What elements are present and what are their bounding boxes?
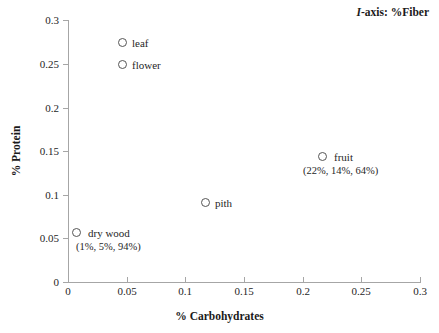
- y-axis-title: % Protein: [10, 101, 22, 201]
- data-label-fruit-name: fruit: [334, 151, 353, 163]
- data-label-fruit-sub: (22%, 14%, 64%): [303, 164, 378, 177]
- data-point-pith[interactable]: [201, 198, 210, 207]
- y-tick-3: [63, 151, 68, 152]
- data-point-leaf[interactable]: [118, 38, 127, 47]
- y-tick-4: [63, 108, 68, 109]
- y-tick-label-5: 0.25: [19, 58, 59, 70]
- y-tick-label-2: 0.1: [19, 189, 59, 201]
- y-tick-1: [63, 238, 68, 239]
- x-tick-label-3: 0.15: [224, 285, 264, 297]
- data-point-dry-wood[interactable]: [72, 228, 81, 237]
- data-label-flower: flower: [132, 59, 161, 72]
- x-axis-line: [68, 282, 421, 283]
- x-tick-label-4: 0.2: [283, 285, 323, 297]
- data-label-fruit: fruit(22%, 14%, 64%): [334, 151, 378, 177]
- y-tick-label-4: 0.2: [19, 102, 59, 114]
- third-axis-annotation: I-axis: %Fiber: [356, 6, 429, 18]
- x-tick-2: [185, 277, 186, 282]
- y-axis-line: [68, 20, 69, 283]
- x-axis-title: % Carbohydrates: [0, 310, 439, 322]
- x-tick-label-6: 0.3: [400, 285, 439, 297]
- x-tick-label-5: 0.25: [341, 285, 381, 297]
- third-axis-annotation-rest: -axis: %Fiber: [361, 6, 429, 18]
- x-tick-label-2: 0.1: [165, 285, 205, 297]
- data-label-pith: pith: [215, 197, 232, 210]
- x-tick-4: [303, 277, 304, 282]
- y-tick-0: [63, 282, 68, 283]
- y-tick-label-3: 0.15: [19, 145, 59, 157]
- x-tick-6: [420, 277, 421, 282]
- data-point-flower[interactable]: [118, 60, 127, 69]
- x-tick-label-0: 0: [48, 285, 88, 297]
- x-tick-label-1: 0.05: [107, 285, 147, 297]
- y-tick-6: [63, 20, 68, 21]
- x-tick-3: [244, 277, 245, 282]
- y-tick-5: [63, 64, 68, 65]
- data-label-dry-wood-name: dry wood: [88, 227, 130, 239]
- data-label-leaf: leaf: [132, 37, 148, 50]
- x-tick-0: [68, 277, 69, 282]
- x-tick-5: [361, 277, 362, 282]
- data-point-fruit[interactable]: [318, 152, 327, 161]
- scatter-chart-figure: I-axis: %Fiber 0 0.05 0.1 0.15 0.2 0.25 …: [0, 0, 439, 333]
- y-tick-label-1: 0.05: [19, 232, 59, 244]
- x-tick-1: [127, 277, 128, 282]
- data-label-dry-wood-sub: (1%, 5%, 94%): [76, 240, 141, 253]
- data-label-dry-wood: dry wood(1%, 5%, 94%): [88, 227, 141, 253]
- y-tick-label-6: 0.3: [19, 14, 59, 26]
- y-tick-2: [63, 195, 68, 196]
